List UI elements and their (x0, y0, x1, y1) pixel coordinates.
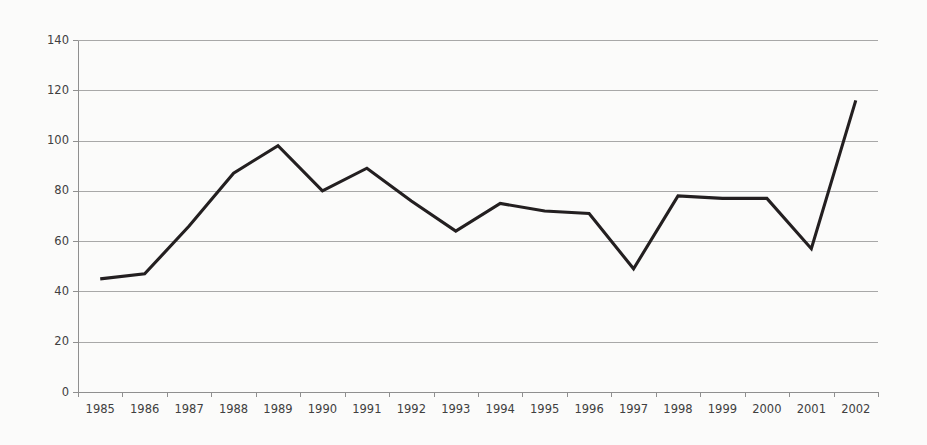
x-axis-tick-label: 1997 (619, 402, 648, 416)
y-axis-tick-label: 100 (47, 133, 69, 147)
x-axis-tick-label: 1986 (130, 402, 159, 416)
x-axis-tick-label: 1993 (441, 402, 470, 416)
y-axis-tick-label: 120 (47, 83, 69, 97)
y-axis-labels-group: 020406080100120140 (47, 33, 69, 399)
data-series-group (100, 100, 856, 279)
y-axis-tick-label: 80 (54, 183, 69, 197)
chart-canvas: 020406080100120140 198519861987198819891… (0, 0, 927, 445)
x-axis-tick-label: 1996 (574, 402, 603, 416)
y-axis-tick-label: 0 (62, 385, 69, 399)
x-axis-tick-label: 1988 (219, 402, 248, 416)
x-axis-tick-label: 2002 (841, 402, 870, 416)
y-axis-tick-label: 20 (54, 334, 69, 348)
x-axis-tick-label: 1992 (397, 402, 426, 416)
x-axis-tick-label: 1994 (486, 402, 515, 416)
x-axis-tick-label: 1999 (708, 402, 737, 416)
x-axis-tick-label: 1995 (530, 402, 559, 416)
gridlines-group (78, 41, 878, 343)
x-axis-tick-label: 1990 (308, 402, 337, 416)
y-axis-tick-label: 140 (47, 33, 69, 47)
x-axis-tick-label: 1998 (663, 402, 692, 416)
x-axis-labels-group: 1985198619871988198919901991199219931994… (86, 402, 871, 416)
x-axis-tick-label: 1987 (174, 402, 203, 416)
x-axis-tick-label: 2000 (752, 402, 781, 416)
x-axis-tick-label: 2001 (797, 402, 826, 416)
y-axis-tick-label: 60 (54, 234, 69, 248)
x-axis-tick-label: 1991 (352, 402, 381, 416)
x-axis-tick-label: 1985 (86, 402, 115, 416)
data-line-series-1 (100, 100, 856, 279)
y-axis-tick-label: 40 (54, 284, 69, 298)
line-chart: 020406080100120140 198519861987198819891… (0, 0, 927, 445)
x-axis-tick-label: 1989 (263, 402, 292, 416)
